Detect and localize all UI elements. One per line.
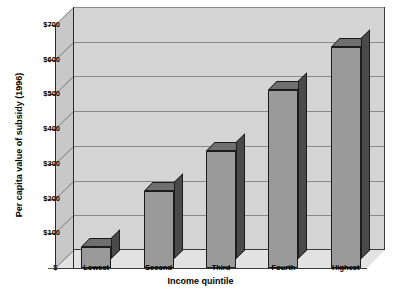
y-axis-line [55, 26, 56, 269]
bar-side-face [361, 30, 370, 259]
bar-side-face [298, 72, 307, 259]
bar-column [144, 182, 174, 268]
bar-side-face [174, 173, 183, 259]
bar-column [331, 38, 361, 268]
bar-column [268, 81, 298, 268]
y-axis-title: Per capita value of subsidy (1996) [14, 30, 24, 260]
bar-front-face [331, 47, 361, 268]
bar-column [206, 142, 236, 268]
x-tick-label: Third [189, 263, 253, 272]
bar-front-face [206, 151, 236, 268]
x-tick-label: Highest [314, 263, 378, 272]
y-tick-label: $- [16, 264, 60, 272]
y-axis-back-edge [73, 7, 74, 269]
bar-chart: $-$100$200$300$400$500$600$700 LowestSec… [0, 0, 401, 294]
bar-front-face [144, 191, 174, 268]
gridline [74, 7, 384, 8]
x-tick-label: Second [127, 263, 191, 272]
x-tick-label: Lowest [64, 263, 128, 272]
bar-side-face [236, 133, 245, 259]
bar-front-face [268, 90, 298, 268]
x-axis-title: Income quintile [0, 276, 401, 286]
y-tick-label: $700 [16, 21, 60, 29]
x-tick-label: Fourth [251, 263, 315, 272]
